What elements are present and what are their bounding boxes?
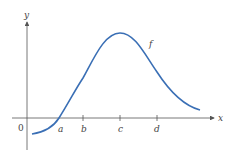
curve-f <box>32 33 200 134</box>
graph-figure: y x 0 a b c d f <box>0 0 235 152</box>
curve-label-f: f <box>148 39 154 49</box>
tick-label-b: b <box>81 124 87 134</box>
function-graph: y x 0 a b c d f <box>0 0 235 152</box>
tick-label-d: d <box>154 124 160 134</box>
tick-label-a: a <box>58 124 63 134</box>
origin-label: 0 <box>18 123 24 133</box>
y-axis-label: y <box>23 10 30 20</box>
x-axis-label: x <box>218 113 223 123</box>
tick-label-c: c <box>118 124 123 134</box>
